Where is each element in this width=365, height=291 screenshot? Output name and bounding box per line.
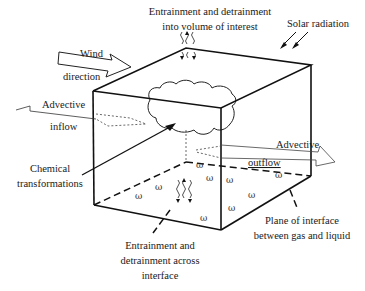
- solar-arrowhead-2-icon: [292, 42, 299, 49]
- label-entrainment-top-2: into volume of interest: [162, 21, 257, 32]
- top-entrainment-wavy-arrows-icon: [180, 31, 196, 60]
- svg-text:ω: ω: [226, 175, 233, 185]
- label-advective-outflow-2: outflow: [248, 157, 281, 168]
- chemical-pointer-line: [82, 127, 170, 175]
- svg-text:ω: ω: [248, 190, 255, 200]
- label-advective-outflow-1: Advective: [276, 139, 319, 150]
- label-plane-2: between gas and liquid: [254, 230, 351, 241]
- label-solar-radiation: Solar radiation: [287, 18, 350, 29]
- bottom-entrainment-wavy-arrows-icon: [176, 178, 192, 203]
- label-direction: direction: [63, 71, 101, 82]
- label-advective-inflow-2: inflow: [50, 121, 78, 132]
- label-entrainment-top-1: Entrainment and detrainment: [149, 6, 272, 17]
- svg-text:ω: ω: [275, 170, 282, 180]
- label-chemical: Chemical: [30, 163, 70, 174]
- svg-text:ω: ω: [196, 160, 203, 170]
- cube-front-left-edge: [93, 91, 94, 205]
- plane-pointer: [290, 190, 298, 210]
- label-plane-1: Plane of interface: [265, 215, 339, 226]
- label-advective-inflow-1: Advective: [42, 99, 85, 110]
- svg-text:ω: ω: [135, 191, 142, 201]
- svg-text:ω: ω: [200, 213, 207, 223]
- label-entrainment-bottom-1: Entrainment and: [125, 240, 195, 251]
- advective-outflow-dashed-icon: [196, 146, 221, 158]
- svg-text:ω: ω: [228, 203, 235, 213]
- atmospheric-box-diagram: ω ω ω ω ω ω ω ω ω Entrainment and detrai…: [0, 0, 365, 291]
- bottom-entrainment-pointer: [153, 210, 170, 233]
- label-transformations: transformations: [17, 178, 83, 189]
- svg-text:ω: ω: [155, 182, 162, 192]
- liquid-ripple-marks-icon: ω ω ω ω ω ω ω ω ω: [135, 160, 282, 223]
- svg-text:ω: ω: [206, 173, 213, 183]
- label-entrainment-bottom-2: detrainment across: [120, 255, 199, 266]
- solar-arrowhead-1-icon: [280, 42, 287, 49]
- advective-inflow-dashed-icon: [96, 114, 146, 126]
- label-entrainment-bottom-3: interface: [142, 270, 179, 281]
- label-wind: Wind: [80, 48, 104, 59]
